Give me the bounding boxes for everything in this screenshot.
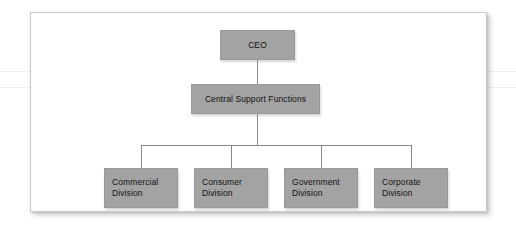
- node-government-division-label: Government Division: [285, 177, 343, 199]
- connector-central-support-to-bus: [257, 114, 258, 145]
- node-commercial-division-label: Commercial Division: [105, 177, 161, 199]
- node-ceo: CEO: [220, 30, 295, 60]
- node-commercial-division: Commercial Division: [104, 168, 178, 208]
- node-government-division: Government Division: [284, 168, 358, 208]
- connector-bus-to-commercial-division: [141, 145, 142, 168]
- connector-ceo-to-central-support: [257, 60, 258, 84]
- node-consumer-division-label: Consumer Division: [195, 177, 245, 199]
- org-chart: CEO Central Support Functions Commercial…: [31, 13, 488, 213]
- node-consumer-division: Consumer Division: [194, 168, 268, 208]
- figure-canvas: CEO Central Support Functions Commercial…: [0, 0, 516, 232]
- node-central-support-functions: Central Support Functions: [191, 84, 320, 114]
- node-ceo-label: CEO: [245, 40, 270, 51]
- connector-bus-to-consumer-division: [231, 145, 232, 168]
- connector-bus-to-corporate-division: [411, 145, 412, 168]
- node-central-support-functions-label: Central Support Functions: [202, 94, 309, 105]
- connector-horizontal-bus: [141, 145, 412, 146]
- figure-frame: CEO Central Support Functions Commercial…: [30, 12, 487, 212]
- node-corporate-division: Corporate Division: [374, 168, 448, 208]
- node-corporate-division-label: Corporate Division: [375, 177, 424, 199]
- connector-bus-to-government-division: [321, 145, 322, 168]
